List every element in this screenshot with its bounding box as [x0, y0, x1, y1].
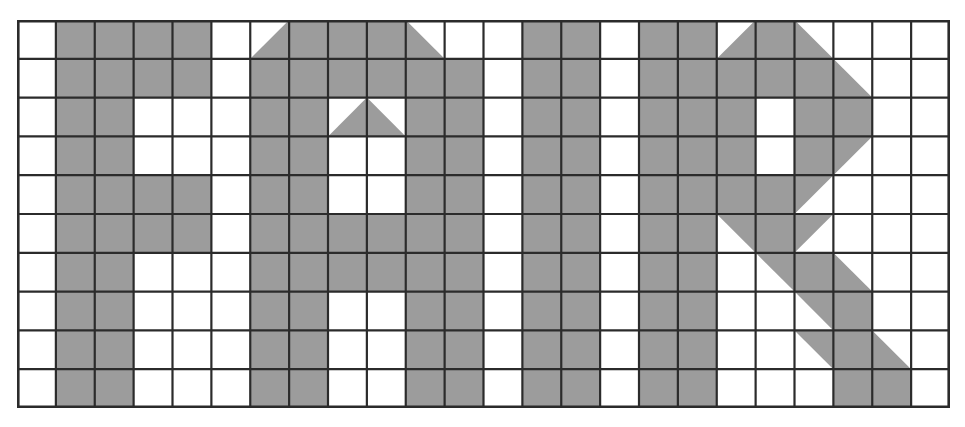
- grid-cell-filled: [95, 214, 134, 253]
- grid-cell-filled: [756, 214, 795, 253]
- grid-cell-filled: [833, 98, 872, 137]
- grid-cell-filled: [678, 136, 717, 175]
- grid-cell-filled: [445, 369, 484, 408]
- grid-cell-filled: [406, 175, 445, 214]
- grid-cell-triangle-top-left: [833, 136, 872, 175]
- grid-cell-filled: [406, 98, 445, 137]
- grid-cell-filled: [522, 330, 561, 369]
- grid-cell-filled: [56, 20, 95, 59]
- grid-cell-filled: [522, 292, 561, 331]
- grid-cell-filled: [328, 20, 367, 59]
- grid-cell-filled: [678, 59, 717, 98]
- grid-cell-filled: [522, 369, 561, 408]
- grid-cell-filled: [522, 175, 561, 214]
- grid-cell-filled: [678, 330, 717, 369]
- grid-cell-filled: [367, 59, 406, 98]
- grid-cell-filled: [367, 20, 406, 59]
- grid-cell-filled: [289, 59, 328, 98]
- grid-cell-triangle-bottom-right: [250, 20, 289, 59]
- grid-cell-filled: [445, 330, 484, 369]
- grid-cell-filled: [678, 214, 717, 253]
- grid-cell-filled: [289, 175, 328, 214]
- grid-cell-filled: [95, 175, 134, 214]
- grid-cell-filled: [56, 59, 95, 98]
- pixel-grid: [17, 20, 950, 408]
- grid-cell-filled: [328, 214, 367, 253]
- grid-cell-filled: [289, 292, 328, 331]
- grid-cell-triangle-top-left: [795, 214, 834, 253]
- grid-cell-filled: [678, 98, 717, 137]
- grid-cell-filled: [406, 292, 445, 331]
- grid-cell-filled: [833, 292, 872, 331]
- grid-cell-filled: [95, 98, 134, 137]
- grid-cell-filled: [678, 292, 717, 331]
- grid-cell-filled: [639, 136, 678, 175]
- grid-cell-filled: [717, 98, 756, 137]
- grid-cell-filled: [56, 175, 95, 214]
- grid-cell-filled: [445, 98, 484, 137]
- grid-cell-filled: [406, 369, 445, 408]
- grid-cell-filled: [250, 59, 289, 98]
- artwork-canvas: [0, 0, 965, 427]
- grid-cell-filled: [134, 20, 173, 59]
- grid-cell-filled: [833, 369, 872, 408]
- grid-cell-triangle-bottom-left: [406, 20, 445, 59]
- grid-cell-triangle-top-right: [795, 330, 834, 369]
- grid-cell-filled: [289, 136, 328, 175]
- grid-cell-filled: [717, 59, 756, 98]
- grid-cell-filled: [328, 253, 367, 292]
- grid-cell-filled: [678, 175, 717, 214]
- grid-cell-filled: [406, 253, 445, 292]
- grid-cell-filled: [756, 175, 795, 214]
- grid-cell-filled: [445, 175, 484, 214]
- grid-cell-filled: [95, 330, 134, 369]
- grid-cell-filled: [56, 253, 95, 292]
- grid-cell-filled: [95, 20, 134, 59]
- grid-cell-filled: [795, 253, 834, 292]
- grid-cell-filled: [289, 20, 328, 59]
- grid-cell-filled: [561, 20, 600, 59]
- grid-cell-filled: [134, 214, 173, 253]
- grid-cell-triangle-bottom-left: [872, 330, 911, 369]
- grid-cell-triangle-bottom-left: [833, 59, 872, 98]
- grid-cell-filled: [95, 136, 134, 175]
- grid-cell-filled: [250, 214, 289, 253]
- grid-cell-filled: [639, 98, 678, 137]
- grid-cell-filled: [561, 98, 600, 137]
- grid-cell-filled: [250, 253, 289, 292]
- grid-cell-filled: [56, 292, 95, 331]
- grid-cell-filled: [250, 292, 289, 331]
- grid-cell-filled: [872, 369, 911, 408]
- grid-cell-filled: [95, 59, 134, 98]
- grid-cell-filled: [522, 253, 561, 292]
- grid-cell-filled: [134, 59, 173, 98]
- grid-cell-filled: [639, 369, 678, 408]
- grid-cell-filled: [95, 253, 134, 292]
- grid-cell-filled: [445, 214, 484, 253]
- grid-cell-filled: [522, 59, 561, 98]
- grid-cell-filled: [56, 369, 95, 408]
- grid-cell-filled: [795, 59, 834, 98]
- grid-cell-triangle-bottom-left: [833, 253, 872, 292]
- grid-cell-filled: [250, 98, 289, 137]
- grid-cell-filled: [639, 59, 678, 98]
- grid-cell-filled: [289, 98, 328, 137]
- grid-cell-filled: [639, 20, 678, 59]
- grid-cell-filled: [522, 214, 561, 253]
- grid-cell-filled: [406, 136, 445, 175]
- grid-cell-filled: [639, 214, 678, 253]
- grid-cell-filled: [95, 369, 134, 408]
- grid-cell-filled: [445, 292, 484, 331]
- grid-cell-filled: [406, 214, 445, 253]
- grid-cell-filled: [678, 253, 717, 292]
- grid-cell-filled: [289, 214, 328, 253]
- grid-cell-filled: [561, 330, 600, 369]
- grid-cell-filled: [56, 136, 95, 175]
- grid-cell-filled: [56, 98, 95, 137]
- grid-cell-filled: [756, 59, 795, 98]
- grid-cell-triangle-top-right: [756, 253, 795, 292]
- grid-cell-triangle-top-right: [717, 214, 756, 253]
- grid-cell-filled: [250, 136, 289, 175]
- grid-cell-filled: [367, 214, 406, 253]
- grid-cell-filled: [406, 330, 445, 369]
